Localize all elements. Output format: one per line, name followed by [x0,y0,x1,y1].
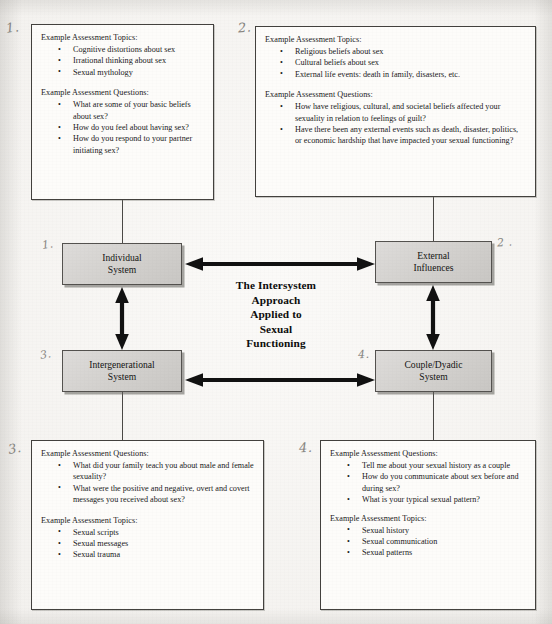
list-item: Sexual history [330,525,527,536]
arrow-intergenerational-couple [184,372,376,388]
panel4-section-gap [330,506,527,513]
list-item: What is your typical sexual pattern? [330,494,527,505]
arrow-individual-external [184,256,376,272]
panel1-section-gap [41,78,205,87]
connector-line-couple-to-panel4 [433,392,434,440]
arrow-external-couple [425,284,441,351]
list-item: Tell me about your sexual history as a c… [330,460,527,471]
center-title-line-5: Functioning [216,336,336,351]
center-title-line-1: The Intersystem [216,278,336,293]
system-box-couple-line2: System [404,371,462,383]
list-item: Irrational thinking about sex [41,55,205,66]
list-item: Sexual scripts [41,527,255,538]
system-box-intergenerational: Intergenerational System [62,350,182,392]
panel-couple-dyadic-system: Example Assessment Questions: Tell me ab… [320,440,536,610]
panel-external-influences: Example Assessment Topics: Religious bel… [255,26,536,197]
list-item: Have there been any external events such… [265,124,527,147]
panel4-topics-heading: Example Assessment Topics: [330,513,527,525]
list-item: Sexual trauma [41,549,255,560]
panel3-section-gap [41,506,255,515]
connector-line-panel1-to-individual [122,200,123,244]
list-item: How do you communicate about sex before … [330,471,527,494]
list-item: What were the positive and negative, ove… [41,483,255,506]
pencil-annotation-panel-1: 1. [5,19,20,36]
panel1-topics-heading: Example Assessment Topics: [41,32,205,44]
list-item: External life events: death in family, d… [265,69,527,80]
list-item: How have religious, cultural, and societ… [265,101,527,124]
pencil-annotation-system-1: 1. [41,237,54,251]
list-item: Religious beliefs about sex [265,46,527,57]
panel1-topics-list: Cognitive distortions about sex Irration… [41,44,205,78]
list-item: What are some of your basic beliefs abou… [41,99,205,122]
system-box-individual-line1: Individual [102,252,141,264]
list-item: How do you feel about having sex? [41,122,205,133]
panel1-questions-heading: Example Assessment Questions: [41,87,205,99]
pencil-annotation-system-3: 3. [39,347,53,362]
list-item: Sexual communication [330,536,527,547]
center-title-line-3: Applied to [216,307,336,322]
panel1-questions-list: What are some of your basic beliefs abou… [41,99,205,156]
panel3-questions-heading: Example Assessment Questions: [41,448,255,460]
panel2-topics-heading: Example Assessment Topics: [265,34,527,46]
panel4-questions-list: Tell me about your sexual history as a c… [330,460,527,506]
system-box-external-influences: External Influences [375,241,492,283]
center-title-line-2: Approach [216,293,336,308]
pencil-annotation-panel-2: 2. [237,20,251,36]
connector-line-intergenerational-to-panel3 [122,392,123,440]
panel4-questions-heading: Example Assessment Questions: [330,448,527,460]
connector-line-panel2-to-external [433,196,434,243]
pencil-annotation-system-4: 4. [358,348,370,362]
pencil-annotation-panel-3: 3. [7,440,23,457]
list-item: Sexual messages [41,538,255,549]
panel2-questions-list: How have religious, cultural, and societ… [265,101,527,147]
panel-individual-system: Example Assessment Topics: Cognitive dis… [31,24,214,200]
panel2-section-gap [265,80,527,89]
pencil-annotation-panel-4: 4. [299,440,313,456]
panel2-topics-list: Religious beliefs about sex Cultural bel… [265,46,527,80]
system-box-external-line2: Influences [414,262,454,274]
panel3-questions-list: What did your family teach you about mal… [41,460,255,506]
panel3-topics-list: Sexual scripts Sexual messages Sexual tr… [41,527,255,561]
panel-intergenerational-system: Example Assessment Questions: What did y… [31,440,264,610]
panel3-topics-heading: Example Assessment Topics: [41,515,255,527]
system-box-external-line1: External [414,250,454,262]
panel4-topics-list: Sexual history Sexual communication Sexu… [330,525,527,559]
list-item: Cognitive distortions about sex [41,44,205,55]
panel2-questions-heading: Example Assessment Questions: [265,89,527,101]
list-item: What did your family teach you about mal… [41,460,255,483]
system-box-couple-line1: Couple/Dyadic [404,359,462,371]
system-box-couple-dyadic: Couple/Dyadic System [375,350,492,392]
system-box-intergenerational-line1: Intergenerational [89,359,154,371]
list-item: Cultural beliefs about sex [265,57,527,68]
system-box-individual-line2: System [102,264,141,276]
center-title: The Intersystem Approach Applied to Sexu… [216,278,336,351]
list-item: How do you respond to your partner initi… [41,133,205,156]
arrow-individual-intergenerational [114,286,130,351]
system-box-individual: Individual System [62,243,182,285]
system-box-intergenerational-line2: System [89,371,154,383]
center-title-line-4: Sexual [216,322,336,337]
list-item: Sexual patterns [330,547,527,558]
list-item: Sexual mythology [41,67,205,78]
pencil-annotation-system-2: 2 . [497,235,513,249]
